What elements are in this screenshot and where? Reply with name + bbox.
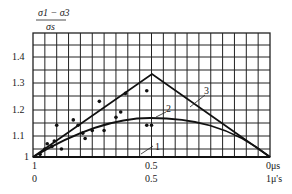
data-point — [53, 139, 57, 143]
data-point — [55, 123, 59, 127]
data-point — [98, 100, 102, 104]
data-point — [71, 118, 75, 122]
data-point — [81, 131, 85, 135]
y-title-numerator: σ1 − σ3 — [38, 7, 70, 18]
y-axis-title: σ1 − σ3 σs — [36, 7, 70, 32]
curve-label-1: 1 — [155, 141, 160, 152]
data-point — [102, 129, 106, 133]
x-top-tick-0.5: 0.5 — [145, 160, 158, 171]
x-top-tick-1: 1 — [32, 160, 37, 171]
data-point — [50, 145, 54, 149]
y-tick-1.3: 1.3 — [12, 77, 25, 88]
y-title-denominator: σs — [46, 21, 55, 32]
data-point — [90, 129, 94, 133]
data-point — [114, 115, 118, 119]
y-tick-labels: 1.4 1.3 1.2 1.1 1 — [12, 51, 29, 162]
data-point — [145, 89, 149, 93]
curve-label-2: 2 — [166, 103, 171, 114]
x-bottom-tick-0.5: 0.5 — [145, 173, 158, 184]
data-point — [60, 147, 64, 151]
data-point — [119, 110, 123, 114]
y-tick-1.0: 1 — [24, 151, 29, 162]
data-point — [150, 123, 154, 127]
x-bottom-tick-0: 0 — [32, 173, 37, 184]
x-tick-labels: 1 0.5 0μs 0 0.5 1μ's — [32, 160, 282, 184]
y-tick-1.4: 1.4 — [12, 51, 25, 62]
data-point — [76, 123, 80, 127]
x-bottom-tick-1: 1μ's — [266, 173, 282, 184]
y-tick-1.1: 1.1 — [12, 130, 25, 141]
data-point — [124, 92, 128, 96]
chart: σ1 − σ3 σs 1.4 1.3 1.2 1.1 1 1 0.5 0μs 0… — [0, 0, 292, 194]
curve-label-3: 3 — [204, 85, 209, 96]
data-point — [83, 137, 87, 141]
data-point — [45, 142, 49, 146]
data-point — [43, 147, 47, 151]
y-tick-1.2: 1.2 — [12, 104, 25, 115]
data-point — [145, 123, 149, 127]
x-top-tick-0: 0μs — [266, 160, 280, 171]
data-point — [38, 153, 42, 157]
